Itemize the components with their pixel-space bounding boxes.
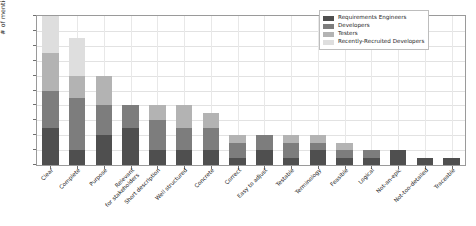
bar-segment [390, 150, 407, 165]
bar-segment [69, 150, 86, 165]
bar-segment [336, 158, 353, 165]
legend-swatch [323, 16, 334, 21]
legend-label: Recently-Recruited Developers [338, 39, 424, 45]
y-tick-mark [33, 164, 36, 165]
legend-label: Testers [338, 31, 358, 37]
bar-segment [336, 143, 353, 150]
legend-item[interactable]: Recently-Recruited Developers [323, 38, 424, 46]
bar-segment [149, 150, 166, 165]
stacked-bar[interactable] [417, 158, 434, 165]
bar-segment [149, 105, 166, 120]
y-tick-mark [33, 30, 36, 31]
bar-segment [310, 143, 327, 150]
y-tick-mark [33, 45, 36, 46]
bar-segment [176, 105, 193, 127]
bar-segment [42, 128, 59, 165]
bar-segment [283, 135, 300, 142]
bar-segment [363, 158, 380, 165]
bar-segment [96, 76, 113, 106]
y-axis-title: # of mentions [0, 0, 6, 52]
stacked-bar[interactable] [122, 105, 139, 165]
bar-segment [42, 16, 59, 53]
stacked-bar[interactable] [256, 135, 273, 165]
legend-label: Requirements Engineers [338, 15, 407, 21]
legend-swatch [323, 40, 334, 45]
legend-item[interactable]: Testers [323, 30, 424, 38]
stacked-bar[interactable] [42, 16, 59, 165]
y-tick-mark [33, 75, 36, 76]
bar-segment [96, 105, 113, 135]
bar-segment [176, 128, 193, 150]
bar-segment [203, 128, 220, 150]
legend-swatch [323, 24, 334, 29]
bar-segment [256, 135, 273, 150]
bar-segment [310, 150, 327, 165]
bar-segment [176, 150, 193, 165]
bar-segment [283, 158, 300, 165]
bar-segment [443, 158, 460, 165]
stacked-bar[interactable] [149, 105, 166, 165]
y-tick-mark [33, 134, 36, 135]
stacked-bar[interactable] [283, 135, 300, 165]
bar-segment [69, 76, 86, 98]
bar-segment [69, 38, 86, 75]
bar-segment [122, 128, 139, 165]
bar-segment [203, 113, 220, 128]
stacked-bar[interactable] [176, 105, 193, 165]
bar-segment [229, 135, 246, 142]
x-axis-labels: ClearCompletePurposeRelevant for stakeho… [36, 167, 466, 226]
stacked-bar[interactable] [69, 38, 86, 165]
bar-segment [229, 143, 246, 158]
bar-segment [69, 98, 86, 150]
bar-segment [229, 158, 246, 165]
bar-segment [203, 150, 220, 165]
bar-segment [283, 143, 300, 158]
bar-segment [96, 135, 113, 165]
stacked-bar[interactable] [390, 150, 407, 165]
y-tick-mark [33, 119, 36, 120]
y-tick-mark [33, 149, 36, 150]
legend-item[interactable]: Developers [323, 22, 424, 30]
stacked-bar[interactable] [443, 158, 460, 165]
bar-segment [336, 150, 353, 157]
stacked-bar[interactable] [310, 135, 327, 165]
bar-segment [363, 150, 380, 157]
stacked-bar[interactable] [96, 76, 113, 165]
legend-label: Developers [338, 23, 370, 29]
bar-segment [122, 105, 139, 127]
stacked-bar[interactable] [363, 150, 380, 165]
stacked-bar[interactable] [203, 113, 220, 165]
legend-swatch [323, 32, 334, 37]
stacked-bar[interactable] [336, 143, 353, 165]
stacked-bar[interactable] [229, 135, 246, 165]
bar-segment [256, 150, 273, 165]
y-tick-mark [33, 104, 36, 105]
y-tick-mark [33, 15, 36, 16]
chart-figure: # of mentions 02468101214161820 ClearCom… [0, 0, 476, 226]
legend-item[interactable]: Requirements Engineers [323, 14, 424, 22]
chart-legend: Requirements EngineersDevelopersTestersR… [319, 10, 429, 50]
bar-segment [42, 91, 59, 128]
y-tick-mark [33, 60, 36, 61]
bar-segment [149, 120, 166, 150]
bar-segment [42, 53, 59, 90]
y-tick-mark [33, 90, 36, 91]
bar-segment [310, 135, 327, 142]
bar-segment [417, 158, 434, 165]
x-tick-label: Clear [9, 167, 55, 213]
